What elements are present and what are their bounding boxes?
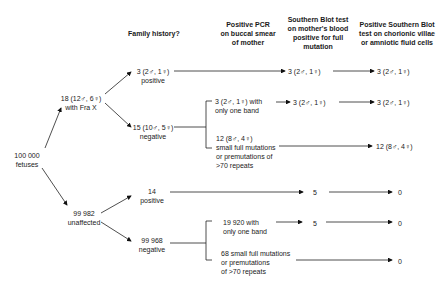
node-unaffected: 99 982 unaffected xyxy=(64,209,104,227)
unaff-neg-small-fetal: 0 xyxy=(398,257,402,266)
node-root-count: 100 000 xyxy=(12,151,42,160)
aff-neg-one-band-blot: 3 (2♂, 1♀) xyxy=(293,98,326,107)
header-pcr: Positive PCR on buccal smear of mother xyxy=(208,20,288,47)
aff-neg-small-fetal: 12 (8♂, 4♀) xyxy=(376,142,413,151)
node-unaffected-negative: 99 968 negative xyxy=(136,236,168,254)
node-label: only one band xyxy=(223,227,267,236)
header-southern-blot-mother: Southern Blot test on mother's blood pos… xyxy=(278,15,358,51)
node-count: 3 (2♂, 1♀) with xyxy=(215,97,262,106)
node-count: 68 small full mutations xyxy=(221,249,290,258)
header-blot-line: positive for full xyxy=(278,33,358,42)
node-label: or premutations xyxy=(221,258,290,267)
node-label: >70 repeats xyxy=(216,161,276,170)
header-fetal-line: or amniotic fluid cells xyxy=(356,38,438,47)
node-count: 14 xyxy=(136,187,168,196)
node-count: 12 (8♂, 4♀) xyxy=(216,134,276,143)
node-label: negative xyxy=(136,245,168,254)
node-count: 15 (10♂, 5♀) xyxy=(130,123,176,132)
node-unaffected-label: unaffected xyxy=(64,218,104,227)
header-blot-line: on mother's blood xyxy=(278,24,358,33)
node-count: 99 968 xyxy=(136,236,168,245)
node-affected: 18 (12♂, 6♀) with Fra X xyxy=(56,94,106,112)
node-root: 100 000 fetuses xyxy=(12,151,42,169)
node-affected-count: 18 (12♂, 6♀) xyxy=(56,94,106,103)
node-label: negative xyxy=(130,132,176,141)
header-pcr-line: of mother xyxy=(208,38,288,47)
node-label: positive xyxy=(136,196,168,205)
unaff-neg-one-band-blot: 5 xyxy=(313,219,317,228)
node-affected-positive: 3 (2♂, 1♀) positive xyxy=(132,67,174,85)
header-fetal-line: Positive Southern Blot xyxy=(356,20,438,29)
node-count: 19 920 with xyxy=(223,218,267,227)
node-label: only one band xyxy=(215,106,262,115)
node-affected-negative: 15 (10♂, 5♀) negative xyxy=(130,123,176,141)
header-pcr-line: Positive PCR xyxy=(208,20,288,29)
node-count: 3 (2♂, 1♀) xyxy=(132,67,174,76)
header-fetal-line: test on chorionic villae xyxy=(356,29,438,38)
node-label: positive xyxy=(132,76,174,85)
unaff-neg-one-band-fetal: 0 xyxy=(398,219,402,228)
node-label: of >70 repeats xyxy=(221,267,290,276)
header-pcr-line: on buccal smear xyxy=(208,29,288,38)
aff-neg-one-band-fetal: 3 (2♂, 1♀) xyxy=(377,98,410,107)
node-unaffected-count: 99 982 xyxy=(64,209,104,218)
aff-neg-one-band: 3 (2♂, 1♀) with only one band xyxy=(215,97,262,115)
header-blot-line: mutation xyxy=(278,42,358,51)
unaff-pos-fetal: 0 xyxy=(398,188,402,197)
header-southern-blot-fetal: Positive Southern Blot test on chorionic… xyxy=(356,20,438,47)
header-blot-line: Southern Blot test xyxy=(278,15,358,24)
node-label: or premutations of xyxy=(216,152,276,161)
aff-pos-fetal: 3 (2♂, 1♀) xyxy=(377,67,410,76)
aff-neg-small: 12 (8♂, 4♀) small full mutations or prem… xyxy=(216,134,276,170)
node-root-label: fetuses xyxy=(12,160,42,169)
header-family-history: Family history? xyxy=(128,29,180,38)
node-label: small full mutations xyxy=(216,143,276,152)
unaff-pos-blot: 5 xyxy=(313,188,317,197)
aff-pos-blot: 3 (2♂, 1♀) xyxy=(288,67,321,76)
node-affected-label: with Fra X xyxy=(56,103,106,112)
node-unaffected-positive: 14 positive xyxy=(136,187,168,205)
unaff-neg-small: 68 small full mutations or premutations … xyxy=(221,249,290,276)
unaff-neg-one-band: 19 920 with only one band xyxy=(223,218,267,236)
